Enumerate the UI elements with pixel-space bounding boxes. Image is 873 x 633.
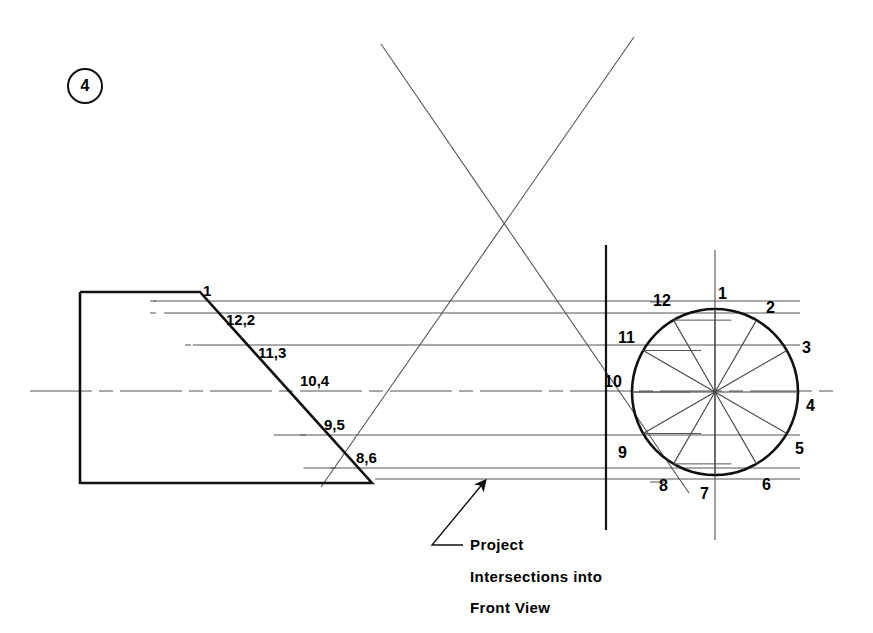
circle-radius-9 <box>643 392 715 434</box>
circle-radius-3 <box>715 351 787 393</box>
circle-point-3-label: 3 <box>802 340 811 356</box>
construction-line-b <box>321 37 634 487</box>
projection-label-9-5-label: 9,5 <box>324 417 345 432</box>
circle-radius-6 <box>715 392 757 464</box>
circle-point-12-label: 12 <box>653 293 671 309</box>
circle-point-1-label: 1 <box>718 286 727 302</box>
circle-radius-11 <box>643 351 715 393</box>
projection-label-10-4-label: 10,4 <box>300 373 329 388</box>
construction-line-a <box>381 44 689 493</box>
circle-radius-8 <box>674 392 716 464</box>
circle-point-9-label: 9 <box>618 445 627 461</box>
figure-number-label: 4 <box>81 78 90 94</box>
figure-number-badge: 4 <box>67 68 103 104</box>
projection-label-1-label: 1 <box>203 283 211 298</box>
construction-cross-group <box>321 37 689 493</box>
technical-drawing-svg <box>0 0 873 633</box>
circle-point-10-label: 10 <box>604 374 622 390</box>
circle-radius-12 <box>674 320 716 392</box>
circle-radius-5 <box>715 392 787 434</box>
projection-label-12-2-label: 12,2 <box>226 312 255 327</box>
circle-point-6-label: 6 <box>762 477 771 493</box>
annotation-line-1: Project <box>470 537 524 552</box>
circle-point-5-label: 5 <box>795 441 804 457</box>
circle-point-7-label: 7 <box>700 486 709 502</box>
drawing-canvas: 4 112,211,310,49,58,6 123456789101112 Pr… <box>0 0 873 633</box>
annotation-line-3: Front View <box>470 600 550 615</box>
circle-point-2-label: 2 <box>766 300 775 316</box>
projection-label-11-3-label: 11,3 <box>258 345 286 360</box>
circle-point-4-label: 4 <box>806 398 815 414</box>
projection-label-8-6-label: 8,6 <box>356 450 377 465</box>
circle-point-11-label: 11 <box>618 330 635 346</box>
circle-radius-2 <box>715 320 757 392</box>
circle-point-8-label: 8 <box>659 478 668 494</box>
annotation-line-2: Intersections into <box>470 569 602 584</box>
